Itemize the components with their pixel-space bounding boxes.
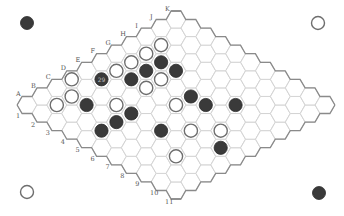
black-stone-E10 xyxy=(214,141,227,154)
column-label: E xyxy=(76,56,81,64)
white-stone-I2 xyxy=(155,39,168,52)
white-stone-F9 xyxy=(214,124,227,137)
black-stone-G7 xyxy=(199,98,212,111)
move-number-label: 29 xyxy=(98,76,106,83)
row-label: 5 xyxy=(76,146,80,154)
black-stone-G3 xyxy=(140,64,153,77)
black-stone-D5 xyxy=(125,107,138,120)
row-label: 9 xyxy=(135,180,139,188)
column-label: J xyxy=(149,13,153,21)
white-stone-F2 xyxy=(110,64,123,77)
row-label: 4 xyxy=(61,138,65,146)
black-stone-C3 xyxy=(80,98,93,111)
column-label: D xyxy=(61,64,66,72)
white-stone-B2 xyxy=(50,98,63,111)
white-stone-E8 xyxy=(184,124,197,137)
row-label: 10 xyxy=(150,189,158,197)
column-label: I xyxy=(135,22,138,30)
black-stone-F3 xyxy=(125,73,138,86)
white-stone-F6 xyxy=(169,98,182,111)
black-stone-H3 xyxy=(155,56,168,69)
row-label: 6 xyxy=(91,155,95,163)
row-label: 11 xyxy=(165,198,173,206)
black-stone-B5 xyxy=(95,124,108,137)
white-stone-F4 xyxy=(140,81,153,94)
column-label: H xyxy=(120,30,126,38)
column-label: G xyxy=(105,39,110,47)
white-stone-C9 xyxy=(169,150,182,163)
column-label: F xyxy=(91,47,96,55)
hex-board: ABCDEFGHIJK1234567891011 29 xyxy=(0,0,344,216)
black-stone-C5 xyxy=(110,116,123,129)
black-stone-D7 xyxy=(155,124,168,137)
white-stone-D4 xyxy=(110,98,123,111)
column-label: K xyxy=(165,5,170,13)
row-label: 7 xyxy=(105,163,109,171)
black-stone-H8 xyxy=(229,98,242,111)
white-stone-G2 xyxy=(125,56,138,69)
row-label: 8 xyxy=(120,172,124,180)
black-stone-G6 xyxy=(184,90,197,103)
row-label: 2 xyxy=(31,121,35,129)
white-stone-D1 xyxy=(65,73,78,86)
white-stone-C2 xyxy=(65,90,78,103)
row-label: 1 xyxy=(16,112,20,120)
corner-marker-bottom-left-white xyxy=(21,186,34,199)
corner-marker-top-left-black xyxy=(21,17,34,30)
black-stone-H4 xyxy=(169,64,182,77)
corner-marker-top-right-white xyxy=(312,17,325,30)
white-stone-H2 xyxy=(140,47,153,60)
white-stone-G4 xyxy=(155,73,168,86)
column-label: C xyxy=(46,73,51,81)
column-label: A xyxy=(15,90,21,98)
corner-marker-bottom-right-black xyxy=(313,187,326,200)
row-label: 3 xyxy=(46,129,50,137)
column-label: B xyxy=(31,82,36,90)
